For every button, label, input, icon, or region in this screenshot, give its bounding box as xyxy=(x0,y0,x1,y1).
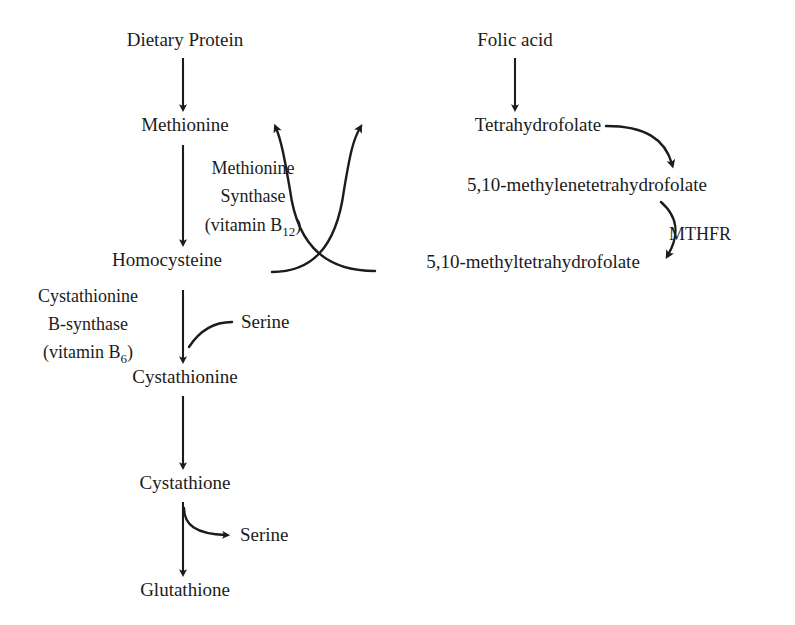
enzyme-methionine-synthase-line1: Methionine xyxy=(212,158,295,178)
node-methionine: Methionine xyxy=(141,114,229,135)
arrow-serine-input xyxy=(189,322,232,347)
node-dietary-protein: Dietary Protein xyxy=(127,29,244,50)
node-methyltetrahydrofolate: 5,10-methyltetrahydrofolate xyxy=(426,251,640,272)
cofactor-b6-suffix: ) xyxy=(127,342,133,363)
cofactor-b6-prefix: (vitamin B xyxy=(43,342,121,363)
enzyme-mthfr: MTHFR xyxy=(669,224,731,244)
enzyme-cystathionine-b-synthase-cofactor: (vitamin B6) xyxy=(43,342,133,366)
enzyme-cystathionine-b-synthase-line1: Cystathionine xyxy=(38,286,138,306)
enzyme-methionine-synthase-line2: Synthase xyxy=(221,186,286,206)
cosubstrate-serine-output: Serine xyxy=(240,524,289,545)
arrow-serine-output xyxy=(184,508,226,535)
node-cystathione: Cystathione xyxy=(140,472,231,493)
arrow-tetrahydrofolate-to-methylene xyxy=(606,126,672,164)
node-tetrahydrofolate: Tetrahydrofolate xyxy=(475,114,601,135)
pathway-diagram: Dietary Protein Methionine Homocysteine … xyxy=(0,0,795,625)
cosubstrate-serine-input: Serine xyxy=(241,311,290,332)
node-methylenetetrahydrofolate: 5,10-methylenetetrahydrofolate xyxy=(467,174,707,195)
node-cystathionine: Cystathionine xyxy=(132,366,238,387)
node-folic-acid: Folic acid xyxy=(477,29,553,50)
enzyme-cystathionine-b-synthase-line2: B-synthase xyxy=(48,314,128,334)
cofactor-b12-prefix: (vitamin B xyxy=(205,215,283,236)
arrow-methylthf-to-methionine xyxy=(276,128,375,271)
cofactor-b12-subscript: 12 xyxy=(282,224,295,239)
node-homocysteine: Homocysteine xyxy=(112,249,222,270)
node-glutathione: Glutathione xyxy=(140,579,230,600)
enzyme-methionine-synthase-cofactor: (vitamin B12) xyxy=(205,215,302,239)
